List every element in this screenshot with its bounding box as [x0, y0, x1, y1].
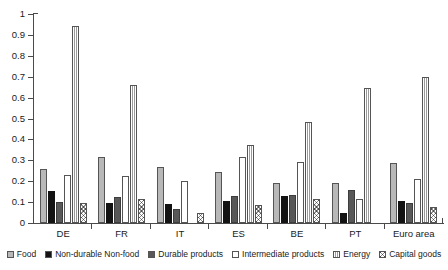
y-axis-tick-label: 1: [0, 9, 25, 19]
bar-group: [268, 14, 326, 223]
y-axis-tick-label: 0.7: [0, 72, 25, 82]
bar: [138, 199, 145, 223]
legend-label: Non-durable Non-food: [55, 250, 139, 259]
bar: [273, 183, 280, 223]
legend-swatch-icon: [333, 251, 340, 258]
x-axis-labels: DEFRITESBEPTEuro area: [34, 228, 443, 239]
bar: [414, 179, 421, 223]
legend-item[interactable]: Energy: [333, 250, 370, 259]
bar-group: [326, 14, 384, 223]
legend-swatch-icon: [148, 251, 155, 258]
bar-group: [92, 14, 150, 223]
bar: [281, 196, 288, 223]
y-axis-tick: [28, 160, 33, 161]
bar: [165, 204, 172, 223]
x-axis-category-label: PT: [326, 228, 384, 239]
bar: [356, 199, 363, 223]
bar-groups: [34, 14, 443, 223]
bar-group: [34, 14, 92, 223]
y-axis-tick: [28, 223, 33, 224]
y-axis-tick-label: 0.3: [0, 155, 25, 165]
bar: [122, 176, 129, 223]
bar: [223, 201, 230, 223]
bar: [157, 167, 164, 223]
bar: [48, 191, 55, 223]
bar: [114, 197, 121, 223]
chart-legend: FoodNon-durable Non-foodDurable products…: [0, 250, 448, 259]
bar: [72, 26, 79, 224]
bar: [56, 202, 63, 223]
y-axis-tick-label: 0.2: [0, 176, 25, 186]
bar: [255, 205, 262, 223]
y-axis-tick-label: 0.5: [0, 114, 25, 124]
y-axis-tick: [28, 77, 33, 78]
legend-item[interactable]: Capital goods: [379, 250, 441, 259]
y-axis-tick: [28, 98, 33, 99]
bar-group: [151, 14, 209, 223]
legend-label: Capital goods: [389, 250, 441, 259]
y-axis-tick-label: 0.4: [0, 134, 25, 144]
x-axis-category-label: FR: [92, 228, 150, 239]
bar: [297, 162, 304, 223]
legend-item[interactable]: Durable products: [148, 250, 223, 259]
legend-item[interactable]: Food: [7, 250, 36, 259]
bar: [197, 213, 204, 223]
legend-swatch-icon: [379, 251, 386, 258]
legend-label: Durable products: [158, 250, 223, 259]
y-axis-tick: [28, 202, 33, 203]
bar: [364, 88, 371, 223]
bar: [181, 181, 188, 223]
bar: [430, 207, 437, 223]
bar: [40, 169, 47, 223]
y-axis-tick-label: 0.1: [0, 197, 25, 207]
y-axis-tick: [28, 14, 33, 15]
legend-swatch-icon: [232, 251, 239, 258]
x-axis-category-label: IT: [151, 228, 209, 239]
y-axis-tick-label: 0.9: [0, 30, 25, 40]
x-axis-category-label: DE: [34, 228, 92, 239]
bar: [239, 157, 246, 223]
bar-chart: 00.10.20.30.40.50.60.70.80.91 DEFRITESBE…: [0, 0, 448, 270]
bar: [130, 85, 137, 223]
bar: [64, 175, 71, 223]
bar: [390, 163, 397, 223]
legend-label: Intermediate products: [242, 250, 324, 259]
y-axis-tick-label: 0.8: [0, 51, 25, 61]
bar: [80, 203, 87, 223]
bar-group: [209, 14, 267, 223]
y-axis-tick: [28, 181, 33, 182]
legend-item[interactable]: Intermediate products: [232, 250, 324, 259]
y-axis-tick: [28, 56, 33, 57]
bar: [173, 209, 180, 223]
legend-label: Energy: [343, 250, 370, 259]
bar: [348, 190, 355, 223]
y-axis-tick: [28, 139, 33, 140]
y-axis-tick: [28, 119, 33, 120]
x-axis-category-label: ES: [209, 228, 267, 239]
legend-label: Food: [17, 250, 36, 259]
legend-item[interactable]: Non-durable Non-food: [45, 250, 139, 259]
x-axis-category-label: BE: [268, 228, 326, 239]
bar-group: [385, 14, 443, 223]
bar: [289, 195, 296, 223]
legend-swatch-icon: [45, 251, 52, 258]
bar: [305, 122, 312, 223]
bar: [422, 77, 429, 223]
bar: [247, 145, 254, 223]
bar: [106, 203, 113, 223]
y-axis-tick-label: 0: [0, 218, 25, 228]
bar: [332, 183, 339, 223]
bar: [98, 157, 105, 223]
bar: [406, 203, 413, 223]
bar: [313, 199, 320, 223]
y-axis-tick-label: 0.6: [0, 93, 25, 103]
y-axis-tick: [28, 35, 33, 36]
bar: [340, 213, 347, 223]
legend-swatch-icon: [7, 251, 14, 258]
bar: [231, 196, 238, 223]
bar: [215, 172, 222, 223]
x-axis-category-label: Euro area: [385, 228, 443, 239]
bar: [398, 201, 405, 223]
